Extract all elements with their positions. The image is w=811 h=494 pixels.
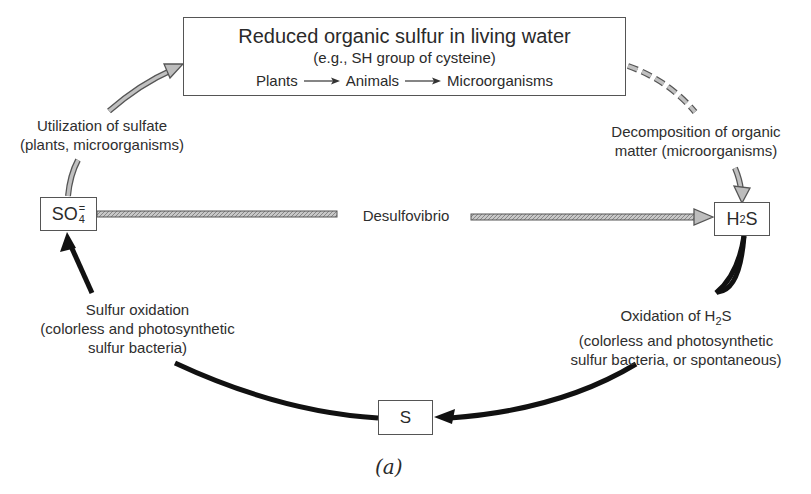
sulfur-oxidation-label: Sulfur oxidation (colorless and photosyn… — [40, 300, 235, 357]
h2s-to-s-arc — [450, 364, 636, 418]
decomposition-arrow-head — [734, 168, 750, 203]
top-box-title: Reduced organic sulfur in living water — [238, 24, 570, 48]
h2s-s: S — [746, 209, 758, 230]
food-chain: Plants Animals Microorganisms — [256, 70, 553, 92]
s-to-oxidation-arc — [175, 363, 378, 418]
utilization-line-1: Utilization of sulfate — [12, 116, 192, 135]
decomposition-line-2: matter (microorganisms) — [596, 141, 796, 160]
s-arrowhead — [434, 409, 455, 424]
decomposition-line-1: Decomposition of organic — [596, 122, 796, 141]
decomposition-dashed-arrow — [628, 66, 695, 112]
top-box-subtitle: (e.g., SH group of cysteine) — [313, 48, 496, 68]
h2s-oxidation-text: Oxidation of H — [620, 307, 715, 324]
utilization-label: Utilization of sulfate (plants, microorg… — [12, 116, 192, 154]
sulfur-node: S — [378, 400, 433, 435]
h2s-oxidation-line-3: sulfur bacteria, or spontaneous) — [566, 350, 786, 369]
sulfur-oxidation-line-3: sulfur bacteria) — [40, 338, 235, 357]
h2s-oxidation-line-1: Oxidation of H2S — [566, 306, 786, 331]
chain-microorganisms: Microorganisms — [447, 70, 553, 92]
right-arrow-icon — [304, 76, 340, 86]
sulfur-oxidation-line-1: Sulfur oxidation — [40, 300, 235, 319]
h2s-oxidation-line-2: (colorless and photosynthetic — [566, 331, 786, 350]
utilization-line-2: (plants, microorganisms) — [12, 135, 192, 154]
h2s-h: H — [726, 209, 739, 230]
sulfate-formula: SO — [52, 204, 78, 225]
chain-plants: Plants — [256, 70, 298, 92]
sulfate-subscript: 4 — [79, 214, 85, 225]
figure-caption: (a) — [375, 455, 403, 479]
chain-animals: Animals — [346, 70, 399, 92]
sulfate-node: SO=4 — [40, 197, 97, 231]
sulfur-oxidation-line-2: (colorless and photosynthetic — [40, 319, 235, 338]
utilization-arrow-lower — [68, 160, 78, 196]
h2s-oxidation-s: S — [722, 307, 732, 324]
decomposition-label: Decomposition of organic matter (microor… — [596, 122, 796, 160]
hydrogen-sulfide-node: H2S — [714, 202, 770, 236]
desulfovibrio-label: Desulfovibrio — [350, 206, 462, 225]
reduced-organic-sulfur-box: Reduced organic sulfur in living water (… — [183, 17, 626, 96]
utilization-arrow-upper — [109, 64, 183, 111]
h2s-oxidation-label: Oxidation of H2S (colorless and photosyn… — [566, 306, 786, 369]
oxidation-to-so4-arc — [70, 244, 92, 293]
right-arrow-icon — [405, 76, 441, 86]
